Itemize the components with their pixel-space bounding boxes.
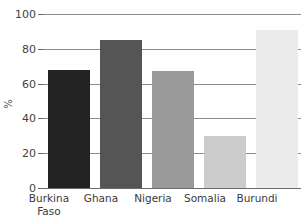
y-tick-label-100: 100	[2, 9, 36, 20]
x-axis-baseline	[44, 188, 301, 189]
y-axis-title: %	[1, 97, 17, 111]
y-tick-label-20: 20	[2, 148, 36, 159]
x-label-burkina-faso-line2: Faso	[18, 205, 80, 218]
bar-burundi[interactable]	[256, 30, 298, 188]
y-tick-label-40: 40	[2, 113, 36, 124]
gridline-100	[44, 14, 301, 15]
bar-somalia[interactable]	[204, 136, 246, 188]
plot-area	[44, 14, 301, 188]
x-label-burundi: Burundi	[226, 192, 288, 205]
bar-ghana[interactable]	[100, 40, 142, 188]
y-tick-label-80: 80	[2, 44, 36, 55]
bar-burkina-faso[interactable]	[48, 70, 90, 188]
y-tick-label-60: 60	[2, 79, 36, 90]
x-label-burundi-line1: Burundi	[226, 192, 288, 205]
bar-chart: % 100 80 60 40 20 0 Burkina Faso Ghana N…	[0, 0, 303, 223]
bar-nigeria[interactable]	[152, 71, 194, 188]
